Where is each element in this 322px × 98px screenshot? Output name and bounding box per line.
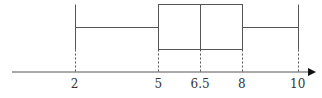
tick-label-8: 8 — [238, 77, 246, 91]
tick-labels: 256.5810 — [71, 77, 306, 91]
dashed-guide-lines — [76, 50, 299, 73]
axis-arrow-icon — [308, 68, 316, 76]
x-axis — [12, 68, 316, 76]
tick-label-10: 10 — [290, 77, 305, 91]
box-plot: 256.5810 — [0, 0, 322, 98]
tick-label-5: 5 — [154, 77, 162, 91]
box-and-whiskers — [76, 5, 299, 50]
tick-label-6.5: 6.5 — [191, 77, 210, 91]
tick-label-2: 2 — [71, 77, 79, 91]
